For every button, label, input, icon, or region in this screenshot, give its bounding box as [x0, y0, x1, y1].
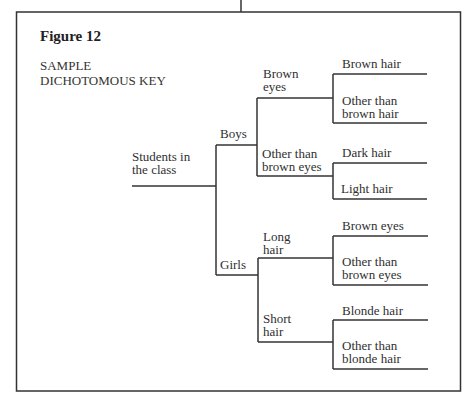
node-label-line: brown eyes: [262, 160, 322, 173]
subtitle-line-1: SAMPLE: [40, 58, 166, 73]
figure-title: Figure 12: [40, 28, 101, 45]
leaf-other-than-brown-hair: Other than brown hair: [342, 94, 399, 120]
node-other-than-brown-eyes: Other than brown eyes: [262, 147, 322, 173]
leaf-label-line: blonde hair: [342, 352, 401, 365]
leaf-brown-eyes: Brown eyes: [342, 219, 404, 232]
node-label-line: eyes: [263, 80, 298, 93]
node-label-line: hair: [263, 243, 290, 256]
node-label-line: hair: [263, 325, 291, 338]
node-girls: Girls: [220, 258, 246, 271]
node-students-in-the-class: Students in the class: [132, 150, 190, 176]
leaf-blonde-hair: Blonde hair: [342, 304, 403, 317]
leaf-label-line: brown eyes: [342, 268, 402, 281]
leaf-other-than-brown-eyes: Other than brown eyes: [342, 255, 402, 281]
leaf-light-hair: Light hair: [341, 182, 393, 195]
leaf-other-than-blonde-hair: Other than blonde hair: [342, 339, 401, 365]
node-label-line: the class: [132, 163, 190, 176]
node-short-hair: Short hair: [263, 312, 291, 338]
leaf-label-line: brown hair: [342, 107, 399, 120]
node-boys: Boys: [220, 127, 247, 140]
figure-subtitle: SAMPLE DICHOTOMOUS KEY: [40, 58, 166, 88]
leaf-brown-hair: Brown hair: [342, 57, 401, 70]
node-brown-eyes: Brown eyes: [263, 67, 298, 93]
node-long-hair: Long hair: [263, 230, 290, 256]
leaf-dark-hair: Dark hair: [342, 146, 391, 159]
subtitle-line-2: DICHOTOMOUS KEY: [40, 73, 166, 88]
